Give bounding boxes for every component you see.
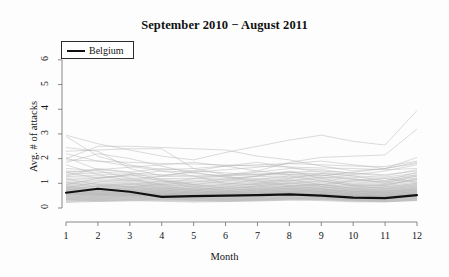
legend-line-swatch [67,50,85,52]
x-tick-label: 7 [247,230,267,241]
x-axis-ticks [66,222,417,226]
x-tick-label: 11 [375,230,395,241]
background-series-group [66,110,417,202]
x-tick-label: 12 [407,230,427,241]
y-axis-title: Avg. # of attacks [28,57,39,217]
x-tick-label: 1 [56,230,76,241]
x-tick-label: 3 [120,230,140,241]
y-tick-label: 6 [39,50,50,66]
x-tick-label: 9 [311,230,331,241]
background-series-line [66,154,417,173]
x-tick-label: 5 [184,230,204,241]
x-axis-title: Month [0,251,449,262]
background-series-line [66,110,417,159]
y-axis-ticks [58,60,62,208]
chart-container: September 2010 − August 2011 Month Avg. … [0,0,449,277]
y-tick-label: 2 [39,149,50,165]
x-tick-label: 8 [279,230,299,241]
y-tick-label: 5 [39,75,50,91]
x-tick-label: 6 [216,230,236,241]
x-tick-label: 10 [343,230,363,241]
y-tick-label: 3 [39,124,50,140]
x-tick-label: 2 [88,230,108,241]
chart-title: September 2010 − August 2011 [0,18,449,33]
y-tick-label: 1 [39,174,50,190]
y-tick-label: 0 [39,199,50,215]
legend-box[interactable]: Belgium [61,41,134,59]
legend-label: Belgium [89,45,123,56]
y-tick-label: 4 [39,100,50,116]
x-tick-label: 4 [152,230,172,241]
background-series-line [66,146,417,171]
